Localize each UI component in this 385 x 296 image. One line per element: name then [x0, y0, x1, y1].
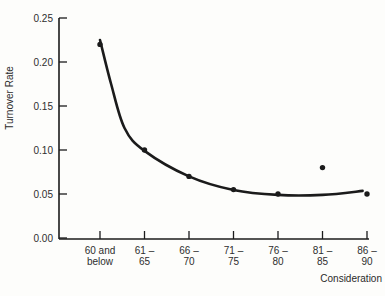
x-tick-label: 85: [317, 256, 329, 267]
x-tick-label: 86 –: [357, 245, 377, 256]
x-tick-label: 65: [139, 256, 151, 267]
x-tick-label: 75: [228, 256, 240, 267]
x-tick-label: 70: [183, 256, 195, 267]
y-tick-label: 0.05: [34, 189, 54, 200]
y-axis-title: Turnover Rate: [4, 66, 15, 130]
x-tick-label: 80: [272, 256, 284, 267]
x-tick-label: 71 –: [224, 245, 244, 256]
chart-svg: 0.000.050.100.150.200.2560 andbelow61 –6…: [0, 0, 385, 296]
x-tick-label: 81 –: [313, 245, 333, 256]
x-axis-title: Consideration: [320, 273, 382, 284]
fit-curve: [100, 40, 363, 195]
x-tick-label: 60 and: [85, 245, 116, 256]
x-tick-label: 90: [361, 256, 373, 267]
chart-plot-area: 0.000.050.100.150.200.2560 andbelow61 –6…: [34, 13, 378, 268]
data-point: [364, 191, 369, 196]
data-point: [275, 191, 280, 196]
y-tick-label: 0.25: [34, 13, 54, 24]
x-tick-label: below: [87, 256, 114, 267]
turnover-vs-consideration-figure: 0.000.050.100.150.200.2560 andbelow61 –6…: [0, 0, 385, 296]
y-tick-label: 0.15: [34, 101, 54, 112]
y-tick-label: 0.00: [34, 233, 54, 244]
data-point: [231, 187, 236, 192]
data-point: [97, 42, 102, 47]
data-point: [186, 174, 191, 179]
data-point: [320, 165, 325, 170]
y-tick-label: 0.20: [34, 57, 54, 68]
x-tick-label: 61 –: [135, 245, 155, 256]
data-point: [142, 147, 147, 152]
y-tick-label: 0.10: [34, 145, 54, 156]
x-tick-label: 66 –: [179, 245, 199, 256]
x-tick-label: 76 –: [268, 245, 288, 256]
